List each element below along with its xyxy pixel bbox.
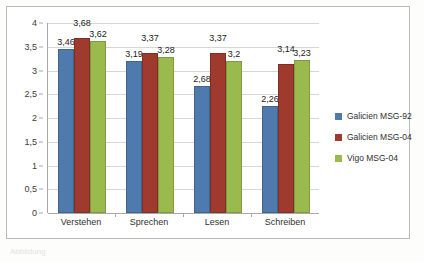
y-axis-tick-label: 0 [32,208,37,218]
legend-label: Galicien MSG-04 [347,132,412,142]
y-axis: 00,511,522,533,54 [7,23,43,213]
y-axis-tick-label: 2,5 [24,89,37,99]
x-axis-label-lesen: Lesen [205,217,230,227]
legend-swatch-icon [335,113,342,120]
bar-value-label: 3,46 [57,37,75,47]
legend-swatch-icon [335,134,342,141]
bar-value-label: 3,2 [228,49,241,59]
y-axis-tick-label: 3,5 [24,42,37,52]
plot-inner: 3,463,683,623,193,373,282,683,373,22,263… [47,23,319,213]
legend-item-0[interactable]: Galicien MSG-92 [335,111,411,121]
plot-area: 3,463,683,623,193,373,282,683,373,22,263… [47,23,319,213]
y-axis-tickmark [39,23,43,24]
y-axis-tickmark [39,165,43,166]
bar-schreiben-series-0[interactable] [262,106,278,213]
bar-value-label: 3,68 [73,18,91,28]
chart-legend: Galicien MSG-92Galicien MSG-04Vigo MSG-0… [335,111,411,174]
bar-sprechen-series-0[interactable] [126,61,142,213]
x-axis-label-schreiben: Schreiben [265,217,306,227]
bar-sprechen-series-1[interactable] [142,53,158,213]
y-axis-tickmark [39,189,43,190]
bar-verstehen-series-1[interactable] [74,38,90,213]
x-axis-labels: VerstehenSprechenLesenSchreiben [47,217,319,235]
x-axis-label-sprechen: Sprechen [130,217,169,227]
bar-value-label: 3,14 [277,44,295,54]
y-axis-tickmark [39,141,43,142]
legend-item-1[interactable]: Galicien MSG-04 [335,132,411,142]
legend-swatch-icon [335,155,342,162]
y-axis-tick-label: 2 [32,113,37,123]
chart-frame: 00,511,522,533,54 3,463,683,623,193,373,… [6,6,410,239]
x-axis-tickmark [251,213,252,217]
y-axis-tick-label: 4 [32,18,37,28]
bar-value-label: 2,68 [193,74,211,84]
bar-value-label: 3,37 [141,33,159,43]
y-axis-tick-label: 1 [32,161,37,171]
x-axis-tickmark [115,213,116,217]
legend-label: Vigo MSG-04 [347,153,398,163]
bar-verstehen-series-2[interactable] [90,41,106,213]
y-axis-tickmark [39,70,43,71]
bar-schreiben-series-2[interactable] [294,60,310,213]
bar-schreiben-series-1[interactable] [278,64,294,213]
bar-lesen-series-1[interactable] [210,53,226,213]
x-axis-label-verstehen: Verstehen [61,217,102,227]
bar-lesen-series-0[interactable] [194,86,210,213]
bars-layer: 3,463,683,623,193,373,282,683,373,22,263… [48,23,319,213]
bar-value-label: 3,28 [157,45,175,55]
y-axis-tick-label: 0,5 [24,184,37,194]
legend-item-2[interactable]: Vigo MSG-04 [335,153,411,163]
y-axis-tickmark [39,213,43,214]
bar-value-label: 3,23 [293,48,311,58]
y-axis-tick-label: 1,5 [24,137,37,147]
legend-label: Galicien MSG-92 [347,111,412,121]
bar-verstehen-series-0[interactable] [58,49,74,213]
y-axis-tickmark [39,94,43,95]
bar-sprechen-series-2[interactable] [158,57,174,213]
bar-lesen-series-2[interactable] [226,61,242,213]
bar-value-label: 2,26 [261,94,279,104]
y-axis-tick-label: 3 [32,66,37,76]
y-axis-tickmark [39,118,43,119]
x-axis-tickmark [183,213,184,217]
scanned-page: 00,511,522,533,54 3,463,683,623,193,373,… [0,0,424,262]
figure-caption: Abbildung [10,247,46,256]
y-axis-tickmark [39,46,43,47]
bar-value-label: 3,62 [89,29,107,39]
bar-value-label: 3,19 [125,49,143,59]
bar-value-label: 3,37 [209,33,227,43]
